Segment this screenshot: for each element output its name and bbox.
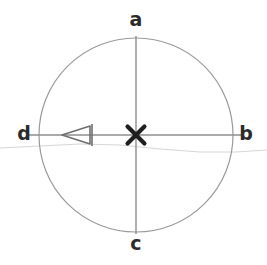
diagram-canvas (0, 0, 267, 265)
axis-label-right: b (236, 124, 256, 143)
axis-label-top: a (126, 10, 146, 29)
axis-label-bottom: c (126, 234, 146, 253)
axis-label-left: d (14, 124, 34, 143)
circle-diagram: a b c d (0, 0, 267, 265)
